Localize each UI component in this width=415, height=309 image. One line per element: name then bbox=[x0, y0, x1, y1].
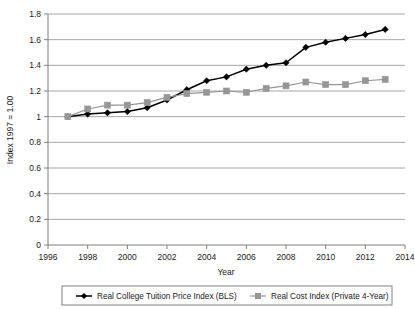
data-point-marker bbox=[303, 79, 309, 85]
x-tick-label: 1998 bbox=[78, 252, 97, 262]
data-point-marker bbox=[105, 102, 111, 108]
x-tick-label: 1996 bbox=[39, 252, 58, 262]
data-point-marker bbox=[144, 100, 150, 106]
legend-label: Real College Tuition Price Index (BLS) bbox=[97, 292, 237, 301]
data-point-marker bbox=[204, 89, 210, 95]
chart-legend: Real College Tuition Price Index (BLS)Re… bbox=[62, 286, 392, 305]
x-tick-label: 2012 bbox=[356, 252, 375, 262]
data-point-marker bbox=[382, 76, 388, 82]
y-tick-label: 1 bbox=[36, 112, 41, 122]
data-point-marker bbox=[224, 88, 230, 94]
y-tick-label: 0.8 bbox=[29, 137, 41, 147]
data-point-marker bbox=[85, 106, 91, 112]
data-point-marker bbox=[243, 89, 249, 95]
legend-label: Real Cost Index (Private 4-Year) bbox=[271, 292, 389, 301]
legend-entry-1[interactable]: Real College Tuition Price Index (BLS) bbox=[76, 292, 237, 301]
x-tick-label: 2006 bbox=[237, 252, 256, 262]
y-tick-label: 1.6 bbox=[29, 35, 41, 45]
y-tick-label: 1.2 bbox=[29, 86, 41, 96]
x-tick-label: 2008 bbox=[277, 252, 296, 262]
data-point-marker bbox=[323, 82, 329, 88]
x-tick-label: 2004 bbox=[197, 252, 216, 262]
y-tick-label: 0.2 bbox=[29, 214, 41, 224]
x-axis-title: Year bbox=[217, 267, 234, 277]
data-point-marker bbox=[184, 91, 190, 97]
x-tick-label: 2000 bbox=[118, 252, 137, 262]
plot-area-background bbox=[48, 14, 405, 245]
y-tick-label: 0.4 bbox=[29, 189, 41, 199]
y-tick-label: 0 bbox=[36, 240, 41, 250]
legend-entry-2[interactable]: Real Cost Index (Private 4-Year) bbox=[250, 292, 389, 301]
x-tick-label: 2014 bbox=[396, 252, 415, 262]
data-point-marker bbox=[343, 82, 349, 88]
data-point-marker bbox=[263, 85, 269, 91]
line-chart: 00.20.40.60.811.21.41.61.8 1996199820002… bbox=[0, 0, 415, 309]
data-point-marker bbox=[362, 78, 368, 84]
y-tick-label: 1.4 bbox=[29, 60, 41, 70]
x-axis-ticks: 1996199820002002200420062008201020122014 bbox=[39, 245, 415, 262]
x-tick-label: 2010 bbox=[316, 252, 335, 262]
y-tick-label: 1.8 bbox=[29, 9, 41, 19]
y-axis-title: Index 1997 = 1.00 bbox=[5, 96, 15, 165]
y-tick-label: 0.6 bbox=[29, 163, 41, 173]
data-point-marker bbox=[124, 102, 130, 108]
data-point-marker bbox=[65, 114, 71, 120]
chart-screenshot: 00.20.40.60.811.21.41.61.8 1996199820002… bbox=[0, 0, 415, 309]
data-point-marker bbox=[164, 94, 170, 100]
data-point-marker bbox=[283, 83, 289, 89]
legend-square-icon bbox=[255, 293, 261, 299]
y-axis-ticks: 00.20.40.60.811.21.41.61.8 bbox=[29, 9, 48, 250]
x-tick-label: 2002 bbox=[158, 252, 177, 262]
